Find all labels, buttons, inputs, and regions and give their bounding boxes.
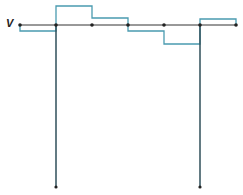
node-dot-5	[162, 23, 166, 27]
node-dot-6	[198, 23, 202, 27]
node-dot-2	[54, 23, 58, 27]
step-waveform-diagram	[0, 0, 243, 195]
spike-end-dot-2	[198, 185, 201, 188]
node-dot-7	[234, 23, 238, 27]
spike-end-dot-1	[54, 185, 57, 188]
node-dot-1	[18, 23, 22, 27]
node-dot-3	[90, 23, 94, 27]
node-dot-4	[126, 23, 130, 27]
